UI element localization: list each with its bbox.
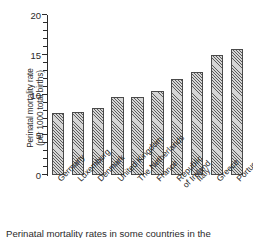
y-tick-minor (43, 62, 47, 63)
y-tick-label: 15 (30, 50, 41, 61)
x-axis-labels: GermanyLuxemburgDenmarkUnited KingdomThe… (47, 177, 253, 235)
chart-figure: Perinatal mortality rate (per 1000 total… (0, 0, 253, 238)
bar (52, 113, 64, 175)
y-tick-minor (43, 38, 47, 39)
bar-slot (68, 15, 88, 175)
y-tick-minor (43, 126, 47, 127)
bar-slot (187, 15, 207, 175)
bar (211, 55, 223, 175)
bar-slot (108, 15, 128, 175)
y-tick-minor (43, 78, 47, 79)
y-tick-minor (43, 46, 47, 47)
y-tick-minor (43, 150, 47, 151)
bar-slot (227, 15, 247, 175)
y-tick-minor (43, 102, 47, 103)
y-tick-label: 0 (36, 170, 41, 181)
bar-slot (207, 15, 227, 175)
bar-slot (48, 15, 68, 175)
y-tick-major (42, 94, 47, 95)
figure-caption: Perinatal mortality rates in some countr… (6, 228, 250, 238)
y-tick-major (42, 54, 47, 55)
y-tick-label: 20 (30, 10, 41, 21)
y-tick-minor (43, 86, 47, 87)
y-tick-minor (43, 142, 47, 143)
y-tick-major (42, 174, 47, 175)
y-tick-major (42, 134, 47, 135)
y-tick-minor (43, 158, 47, 159)
y-tick-minor (43, 166, 47, 167)
y-tick-minor (43, 118, 47, 119)
y-tick-minor (43, 70, 47, 71)
y-axis-title: Perinatal mortality rate (per 1000 total… (0, 38, 30, 178)
y-tick-label: 5 (36, 130, 41, 141)
y-tick-label: 10 (30, 90, 41, 101)
y-tick-minor (43, 22, 47, 23)
y-tick-major (42, 14, 47, 15)
y-tick-minor (43, 30, 47, 31)
y-tick-minor (43, 110, 47, 111)
